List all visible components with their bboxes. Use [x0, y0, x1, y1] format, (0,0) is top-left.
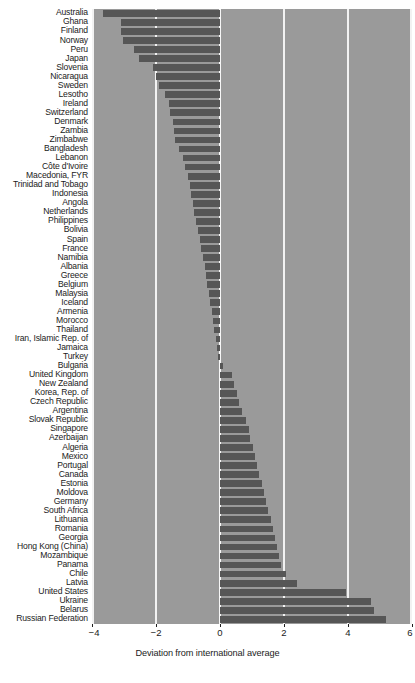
bar [220, 408, 242, 415]
bar-row [92, 371, 412, 380]
bar-row [92, 72, 412, 81]
bar-row [92, 9, 412, 18]
bar-row [92, 181, 412, 190]
bar-row [92, 606, 412, 615]
bar [201, 245, 220, 252]
bar-row [92, 262, 412, 271]
bar [170, 109, 220, 116]
bar-row [92, 615, 412, 624]
bar-row [92, 118, 412, 127]
bar [220, 381, 234, 388]
bar [191, 191, 220, 198]
bar [220, 462, 257, 469]
bar [165, 91, 220, 98]
bar [217, 345, 220, 352]
category-label: Russian Federation [0, 614, 88, 623]
bar-row [92, 579, 412, 588]
bar [121, 28, 220, 35]
bar-row [92, 326, 412, 335]
x-tick-label: 6 [407, 627, 412, 638]
bar [220, 598, 371, 605]
bar [220, 390, 237, 397]
bar-row [92, 416, 412, 425]
bar-row [92, 27, 412, 36]
bar-row [92, 136, 412, 145]
bar [220, 580, 297, 587]
bar-row [92, 307, 412, 316]
bar [216, 336, 220, 343]
bar [205, 263, 220, 270]
bar-row [92, 289, 412, 298]
bar-row [92, 497, 412, 506]
bar [220, 616, 386, 623]
bar [190, 182, 220, 189]
bar-row [92, 443, 412, 452]
bar-row [92, 344, 412, 353]
bar-row [92, 217, 412, 226]
bar-row [92, 244, 412, 253]
bar [220, 498, 266, 505]
bar-row [92, 317, 412, 326]
bar-row [92, 543, 412, 552]
bar [220, 471, 259, 478]
bar-row [92, 81, 412, 90]
bar [220, 607, 374, 614]
bar-row [92, 253, 412, 262]
bar-row [92, 515, 412, 524]
category-axis-labels: AustraliaGhanaFinlandNorwayPeruJapanSlov… [0, 9, 88, 624]
bar-row [92, 280, 412, 289]
bar [220, 399, 239, 406]
bar-row [92, 154, 412, 163]
x-tick-label: −4 [89, 627, 100, 638]
x-tick-label: 2 [281, 627, 286, 638]
bar [220, 480, 262, 487]
bar-row [92, 90, 412, 99]
bar [183, 155, 220, 162]
bar [213, 318, 220, 325]
bar-row [92, 54, 412, 63]
x-axis: −4−20246 [92, 624, 412, 644]
bar-row [92, 199, 412, 208]
bar [220, 535, 275, 542]
bar [220, 516, 271, 523]
bar [220, 507, 268, 514]
bar-row [92, 452, 412, 461]
bar [188, 173, 220, 180]
bar-row [92, 389, 412, 398]
bar-row [92, 552, 412, 561]
bar-row [92, 235, 412, 244]
bar [220, 363, 223, 370]
bar-row [92, 271, 412, 280]
bar-row [92, 145, 412, 154]
bar-row [92, 190, 412, 199]
bar-chart-figure: AustraliaGhanaFinlandNorwayPeruJapanSlov… [0, 0, 415, 683]
bar [153, 64, 220, 71]
bar-row [92, 335, 412, 344]
bar [159, 82, 220, 89]
bar-row [92, 380, 412, 389]
bar [179, 146, 220, 153]
bars-group [92, 9, 412, 624]
bar-row [92, 99, 412, 108]
x-tick-label: 4 [345, 627, 350, 638]
bar-row [92, 597, 412, 606]
bar-row [92, 298, 412, 307]
bar-row [92, 425, 412, 434]
bar-row [92, 506, 412, 515]
bar [220, 435, 250, 442]
bar [156, 73, 220, 80]
bar [196, 218, 220, 225]
bar-row [92, 36, 412, 45]
bar-row [92, 18, 412, 27]
bar-row [92, 488, 412, 497]
bar-row [92, 226, 412, 235]
bar-row [92, 127, 412, 136]
bar [185, 164, 220, 171]
bar-row [92, 470, 412, 479]
bar [220, 544, 277, 551]
plot-area [92, 9, 412, 624]
bar-row [92, 570, 412, 579]
bar [210, 299, 220, 306]
bar-row [92, 434, 412, 443]
bar-row [92, 588, 412, 597]
